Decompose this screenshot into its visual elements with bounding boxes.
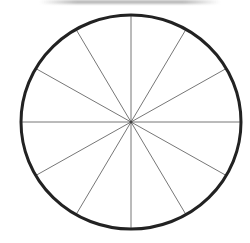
spoke-line [76,29,131,122]
spoke-line [131,122,226,176]
spoke-line [131,29,186,122]
spoke-line [76,122,131,215]
spoke-line [36,69,131,123]
spoke-line [131,69,226,123]
spoke-line [36,122,131,176]
spoke-line [131,122,186,215]
center-point [130,121,133,124]
sector-circle-diagram [0,0,250,243]
